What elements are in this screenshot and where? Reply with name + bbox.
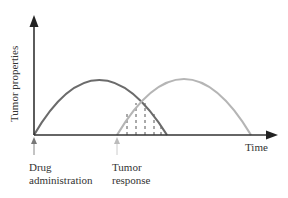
drug-effect-curve <box>34 80 167 135</box>
drug-admin-arrow-icon <box>31 137 37 144</box>
drug-label-line2: administration <box>29 174 93 187</box>
y-axis-label: Tumor properties <box>8 46 20 122</box>
tumor-response-arrow-icon <box>114 137 120 144</box>
tumor-response-label: Tumor response <box>112 161 151 187</box>
x-axis-arrowhead-icon <box>266 131 278 140</box>
drug-administration-label: Drug administration <box>29 161 93 187</box>
tumor-label-line2: response <box>112 174 151 187</box>
tumor-response-curve <box>117 79 251 135</box>
drug-label-line1: Drug <box>29 161 93 174</box>
x-axis-label: Time <box>245 141 268 154</box>
tumor-label-line1: Tumor <box>112 161 151 174</box>
y-axis-arrowhead-icon <box>30 15 39 27</box>
